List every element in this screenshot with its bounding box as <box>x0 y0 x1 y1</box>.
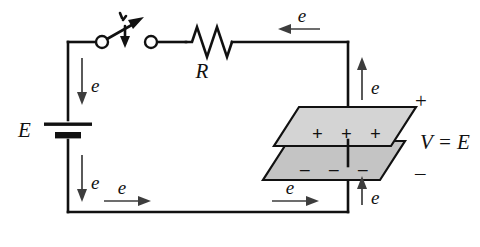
battery-symbol <box>44 123 92 139</box>
capacitor-top-charge-3: + <box>370 123 381 144</box>
electron-arrow-bottom-right: e <box>272 177 319 206</box>
switch-terminal-left[interactable] <box>96 36 108 48</box>
capacitor: + + + – – – <box>263 107 416 180</box>
electron-arrow-right-upper: e <box>357 57 379 100</box>
electron-label-left-upper: e <box>91 75 99 96</box>
electron-arrow-top: e <box>278 5 320 34</box>
switch-terminal-right[interactable] <box>145 36 157 48</box>
switch-motion-tick-1 <box>120 13 122 18</box>
battery-short-plate <box>55 132 81 138</box>
label-voltage-relation: V = E <box>420 130 470 154</box>
electron-label-right-upper: e <box>371 77 379 98</box>
circuit-svg: E R + + + <box>0 0 480 247</box>
capacitor-terminal-plus: + <box>415 89 427 113</box>
capacitor-bottom-charge-2: – <box>328 158 339 179</box>
electron-arrow-left-lower: e <box>77 155 99 202</box>
electron-label-top: e <box>298 5 306 26</box>
electron-arrow-bottom-left: e <box>104 177 151 206</box>
electron-label-right-lower: e <box>371 187 379 208</box>
circuit-diagram-canvas: E R + + + <box>0 0 480 247</box>
label-resistor-R: R <box>195 59 209 83</box>
switch-open[interactable] <box>96 13 157 48</box>
battery-long-plate <box>44 123 92 126</box>
switch-close-direction-arrowhead <box>120 36 130 48</box>
capacitor-top-charge-1: + <box>312 123 323 144</box>
capacitor-terminal-minus: – <box>414 161 426 185</box>
capacitor-bottom-charge-3: – <box>357 158 368 179</box>
electron-label-bottom-left: e <box>118 177 126 198</box>
switch-motion-tick-2 <box>123 16 126 20</box>
electron-arrow-left-upper: e <box>77 58 99 105</box>
electron-label-bottom-right: e <box>286 177 294 198</box>
electron-label-left-lower: e <box>91 172 99 193</box>
capacitor-top-charge-2: + <box>341 123 352 144</box>
resistor-zigzag <box>186 27 232 57</box>
capacitor-bottom-charge-1: – <box>299 158 310 179</box>
label-source-E: E <box>17 118 31 142</box>
